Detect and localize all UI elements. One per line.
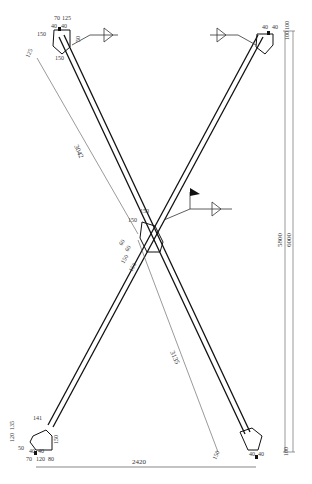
bl-dim-80: 80 xyxy=(48,456,54,462)
br-dim-40b: 40 xyxy=(258,451,264,457)
diagonal-member-tl-br xyxy=(59,35,250,434)
bl-dim-70: 70 xyxy=(26,456,32,462)
bl-dim-50: 50 xyxy=(18,445,24,451)
tl-dim-40b: 40 xyxy=(61,23,67,29)
bl-dim-120b: 120 xyxy=(36,456,45,462)
weld-symbol-center xyxy=(164,188,232,220)
center-dim-60a: 60 xyxy=(118,238,126,246)
dim-diagonal-upper: 3042 xyxy=(72,144,85,161)
br-dim-150: 150 xyxy=(211,450,220,461)
tl-dim-150b: 150 xyxy=(55,55,64,61)
center-dim-60b: 60 xyxy=(124,244,132,252)
gusset-bottom-left xyxy=(30,430,52,450)
tl-dim-125b: 125 xyxy=(24,48,33,59)
bl-dim-135: 135 xyxy=(9,421,15,430)
center-dim-150b: 150 xyxy=(128,217,137,223)
center-dim-150c: 150 xyxy=(120,254,130,265)
tl-dim-50: 50 xyxy=(75,36,81,42)
dim-diagonal-lower: 3135 xyxy=(168,350,181,367)
dim-height-inner: 5800 xyxy=(276,233,284,248)
br-dim-40a: 40 xyxy=(249,451,255,457)
tr-dim-40b: 40 xyxy=(272,24,278,30)
dim-height-outer: 6000 xyxy=(285,233,293,248)
tl-dim-40a: 40 xyxy=(51,23,57,29)
bl-dim-40a: 40 xyxy=(29,448,35,454)
tl-dim-125: 125 xyxy=(62,15,71,21)
gusset-bottom-right xyxy=(240,428,262,450)
bracing-drawing: 3042 3135 5800 6000 100 100 2420 70 125 … xyxy=(0,0,312,484)
bl-dim-141: 141 xyxy=(33,415,42,421)
bl-dim-120: 120 xyxy=(9,433,15,442)
dim-overall-width: 2420 xyxy=(132,458,147,466)
bl-dim-40b: 40 xyxy=(38,448,44,454)
center-dim-150d: 150 xyxy=(128,262,138,273)
dim-top-offset: 100 xyxy=(284,21,290,30)
dim-bottom-offset: 100 xyxy=(283,447,289,456)
tr-dim-100: 100 xyxy=(284,31,290,40)
bl-dim-150: 150 xyxy=(53,435,59,444)
bolt-top-right xyxy=(267,31,270,35)
tr-dim-40a: 40 xyxy=(262,24,268,30)
dim-line-diagonal-lower xyxy=(138,240,218,452)
center-dim-150a: 150 xyxy=(140,208,149,214)
tl-dim-150: 150 xyxy=(37,31,46,37)
tl-dim-70: 70 xyxy=(54,15,60,21)
weld-symbol-top-right xyxy=(210,28,256,45)
